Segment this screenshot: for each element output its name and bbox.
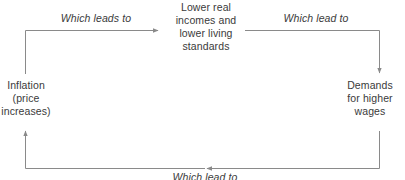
edge-lower-incomes-to-wage-demands [245,31,380,74]
edge-label-inflation-to-lower-incomes: Which leads to [36,12,156,25]
edge-label-wage-demands-to-inflation: Which lead to [140,171,270,180]
node-inflation: Inflation (price increases) [0,79,52,118]
node-lower-incomes: Lower real incomes and lower living stan… [158,1,254,53]
edge-wage-demands-to-inflation [207,131,380,169]
node-wage-demands: Demands for higher wages [336,79,404,118]
edge-label-lower-incomes-to-wage-demands: Which lead to [256,12,376,25]
edge-wage-demands-to-inflation-riser [26,131,206,169]
diagram-canvas: Inflation (price increases) Lower real i… [0,0,405,180]
edge-inflation-to-lower-incomes [26,31,159,75]
